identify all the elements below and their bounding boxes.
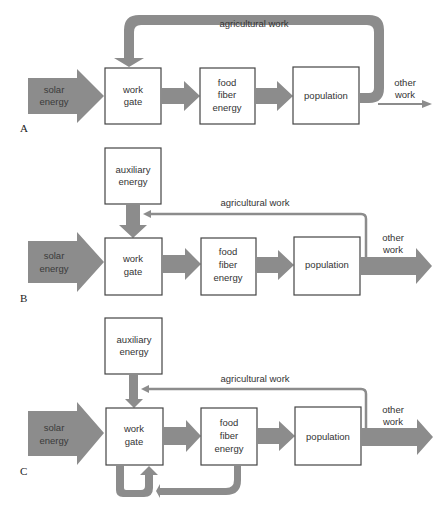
food-to-population-arrow	[255, 81, 293, 111]
solar-energy-arrow	[28, 232, 104, 292]
svg-text:solar: solar	[44, 250, 65, 261]
svg-text:work: work	[123, 423, 144, 434]
auxiliary-to-gate-arrow	[119, 204, 147, 238]
gate-to-food-arrow	[162, 248, 201, 280]
svg-text:energy: energy	[118, 176, 147, 187]
food-to-population-arrow	[257, 421, 295, 451]
panel-c: auxiliary energy agricultural work solar…	[20, 318, 433, 498]
svg-text:fiber: fiber	[220, 430, 238, 441]
food-to-population-arrow	[256, 250, 294, 280]
svg-text:food: food	[219, 246, 238, 257]
svg-text:gate: gate	[124, 266, 143, 277]
svg-text:agricultural work: agricultural work	[220, 373, 289, 384]
svg-text:food: food	[218, 77, 237, 88]
panel-letter-a: A	[20, 122, 28, 134]
svg-text:auxiliary: auxiliary	[117, 334, 152, 345]
svg-text:work: work	[382, 244, 403, 255]
svg-text:food: food	[220, 417, 239, 428]
svg-text:gate: gate	[124, 96, 143, 107]
food-recycle-loop	[156, 465, 241, 498]
gate-to-food-arrow	[163, 420, 201, 452]
solar-energy-arrow	[28, 402, 104, 465]
svg-text:other: other	[394, 77, 416, 88]
other-work-arrow	[422, 100, 432, 108]
solar-energy-label: solar	[44, 84, 65, 95]
panel-b: auxiliary energy agricultural work solar…	[20, 148, 432, 304]
svg-text:energy: energy	[214, 443, 243, 454]
svg-text:work: work	[122, 84, 143, 95]
svg-text:energy: energy	[39, 96, 68, 107]
svg-text:energy: energy	[213, 272, 242, 283]
svg-text:work: work	[382, 416, 403, 427]
panel-a: agricultural work solar energy work gate…	[20, 15, 432, 134]
gate-to-food-arrow	[161, 81, 200, 111]
svg-text:population: population	[306, 431, 350, 442]
energy-flow-diagram: agricultural work solar energy work gate…	[0, 0, 448, 512]
panel-letter-b: B	[20, 292, 27, 304]
auxiliary-to-gate-arrow	[125, 374, 143, 408]
svg-text:energy: energy	[39, 435, 68, 446]
svg-text:fiber: fiber	[219, 259, 237, 270]
panel-letter-c: C	[20, 465, 27, 477]
svg-text:work: work	[122, 253, 143, 264]
svg-text:population: population	[305, 259, 349, 270]
svg-text:work: work	[394, 89, 415, 100]
svg-text:other: other	[382, 404, 404, 415]
svg-text:agricultural work: agricultural work	[220, 197, 289, 208]
gate-self-loop	[116, 465, 158, 497]
agricultural-work-label: agricultural work	[219, 18, 288, 29]
svg-text:fiber: fiber	[218, 89, 236, 100]
svg-text:auxiliary: auxiliary	[116, 164, 151, 175]
svg-text:population: population	[304, 90, 348, 101]
svg-text:other: other	[382, 232, 404, 243]
svg-text:energy: energy	[39, 263, 68, 274]
svg-text:energy: energy	[119, 346, 148, 357]
svg-text:solar: solar	[44, 422, 65, 433]
svg-text:gate: gate	[125, 436, 144, 447]
svg-text:energy: energy	[212, 102, 241, 113]
